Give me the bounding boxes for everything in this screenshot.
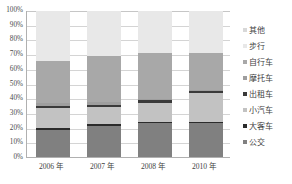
y-axis-tick-label: 50% (10, 81, 23, 88)
bar-2006年 (36, 11, 70, 157)
legend-label: 其他 (249, 26, 265, 35)
legend-swatch-icon (243, 44, 247, 48)
bar-segment-公交 (36, 130, 70, 157)
x-axis-tick-label: 2006 年 (24, 162, 80, 172)
x-axis-tick-label: 2007 年 (75, 162, 131, 172)
y-axis-tick-label: 100% (6, 7, 23, 14)
x-axis-labels: 2006 年2007 年2008 年2010 年 (26, 162, 230, 178)
bar-segment-小汽车 (189, 93, 223, 121)
x-axis-tick-label: 2008 年 (126, 162, 182, 172)
bar-segment-小汽车 (87, 107, 121, 124)
legend-item-自行车[interactable]: 自行车 (243, 54, 292, 70)
legend-item-小汽车[interactable]: 小汽车 (243, 102, 292, 118)
y-axis-tick-label: 90% (10, 22, 23, 29)
legend-label: 出租车 (249, 90, 273, 99)
bar-series-group (27, 11, 230, 157)
legend-label: 小汽车 (249, 106, 273, 115)
legend-swatch-icon (243, 76, 247, 80)
legend-item-出租车[interactable]: 出租车 (243, 86, 292, 102)
bar-2007年 (87, 11, 121, 157)
chart-legend: 其他步行自行车摩托车出租车小汽车大客车公交 (243, 22, 292, 162)
legend-label: 公交 (249, 138, 265, 147)
bar-2010年 (189, 11, 223, 157)
legend-label: 步行 (249, 42, 265, 51)
bar-2008年 (138, 11, 172, 157)
y-axis-tick-label: 60% (10, 66, 23, 73)
legend-item-公交[interactable]: 公交 (243, 134, 292, 150)
bar-segment-公交 (87, 126, 121, 157)
bar-segment-步行 (138, 11, 172, 53)
bar-segment-自行车 (87, 56, 121, 102)
legend-swatch-icon (243, 140, 247, 144)
legend-item-大客车[interactable]: 大客车 (243, 118, 292, 134)
y-axis-tick-label: 20% (10, 125, 23, 132)
legend-swatch-icon (243, 60, 247, 64)
legend-item-其他[interactable]: 其他 (243, 22, 292, 38)
legend-item-步行[interactable]: 步行 (243, 38, 292, 54)
bar-segment-自行车 (36, 61, 70, 103)
y-axis-tick-label: 0% (13, 154, 23, 161)
y-axis-tick-label: 80% (10, 36, 23, 43)
y-axis-tick-label: 70% (10, 51, 23, 58)
y-axis-tick-label: 30% (10, 110, 23, 117)
bar-segment-步行 (87, 11, 121, 56)
y-axis-labels: 100%90%80%70%60%50%40%30%20%10%0% (0, 0, 24, 158)
plot-area (26, 11, 230, 158)
legend-swatch-icon (243, 124, 247, 128)
bar-segment-公交 (138, 123, 172, 157)
bar-segment-小汽车 (36, 108, 70, 128)
y-axis-tick-label: 40% (10, 95, 23, 102)
x-axis-tick-label: 2010 年 (177, 162, 233, 172)
bar-segment-自行车 (138, 53, 172, 99)
legend-label: 摩托车 (249, 74, 273, 83)
legend-swatch-icon (243, 108, 247, 112)
legend-swatch-icon (243, 28, 247, 32)
y-axis-tick-label: 10% (10, 139, 23, 146)
legend-item-摩托车[interactable]: 摩托车 (243, 70, 292, 86)
bar-segment-自行车 (189, 53, 223, 90)
bar-segment-公交 (189, 123, 223, 157)
bar-segment-步行 (189, 11, 223, 53)
legend-swatch-icon (243, 92, 247, 96)
bar-segment-小汽车 (138, 103, 172, 122)
stacked-bar-chart: 100%90%80%70%60%50%40%30%20%10%0% 2006 年… (0, 0, 292, 184)
legend-label: 大客车 (249, 122, 273, 131)
bar-segment-步行 (36, 11, 70, 61)
legend-label: 自行车 (249, 58, 273, 67)
